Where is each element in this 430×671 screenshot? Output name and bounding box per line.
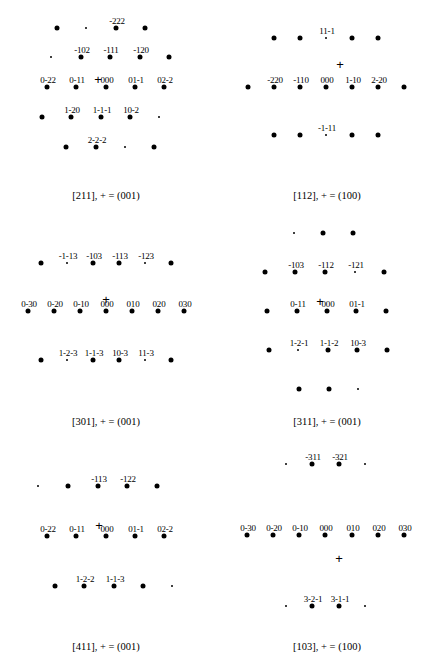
spot-index-label: 020 xyxy=(153,300,166,309)
panel-301: [301], + = (001) -1-13-103-113-1230-300-… xyxy=(0,0,430,671)
spot-index-label: -311 xyxy=(305,453,320,462)
spot-index-label: 1-10 xyxy=(345,76,361,85)
spot-index-label: 0-20 xyxy=(266,524,282,533)
spot-index-label: -123 xyxy=(138,252,154,261)
spot-index-label: 11-3 xyxy=(138,349,153,358)
diffraction-spot xyxy=(141,584,146,589)
diffraction-spot xyxy=(74,85,79,90)
spot-index-label: -222 xyxy=(109,17,125,26)
spot-index-label: 10-3 xyxy=(350,339,366,348)
spot-index-label: 0-30 xyxy=(21,300,37,309)
diffraction-spot xyxy=(265,309,270,314)
diffraction-spot xyxy=(298,85,303,90)
spot-index-label: 1-20 xyxy=(64,106,80,115)
diffraction-spot xyxy=(152,145,157,150)
diffraction-spot xyxy=(272,36,277,41)
spot-index-label: -122 xyxy=(120,475,136,484)
spot-index-label: 1-2-2 xyxy=(76,575,95,584)
diffraction-spot xyxy=(133,534,138,539)
spot-index-label: 0-22 xyxy=(40,76,56,85)
spot-index-label: -1-13 xyxy=(59,252,78,261)
panel-311: [311], + = (001) -103-112-1210-1100001-1… xyxy=(0,0,430,671)
spot-index-label: 030 xyxy=(399,524,412,533)
diffraction-spot xyxy=(156,309,161,314)
diffraction-spot xyxy=(355,348,360,353)
diffraction-spot xyxy=(354,309,359,314)
diffraction-spot xyxy=(321,231,326,236)
diffraction-spot xyxy=(271,533,276,538)
diffraction-spot xyxy=(298,36,303,41)
spot-index-label: -120 xyxy=(133,46,149,55)
spot-index-label: 010 xyxy=(347,524,360,533)
panel-caption: [301], + = (001) xyxy=(72,416,140,427)
diffraction-spot xyxy=(326,348,331,353)
diffraction-spot xyxy=(162,534,167,539)
diffraction-spot xyxy=(85,27,87,29)
diffraction-spot xyxy=(39,261,44,266)
diffraction-spot xyxy=(327,387,332,392)
diffraction-spot xyxy=(285,463,287,465)
spot-index-label: 01-1 xyxy=(128,525,144,534)
spot-index-label: 0-22 xyxy=(40,525,56,534)
diffraction-spot xyxy=(350,533,355,538)
diffraction-spot xyxy=(108,55,113,60)
diffraction-spot xyxy=(295,309,300,314)
diffraction-spot xyxy=(144,359,146,361)
spot-index-label: -110 xyxy=(293,76,308,85)
diffraction-spot xyxy=(124,146,126,148)
spot-index-label: 11-1 xyxy=(319,27,334,36)
spot-index-label: 1-1-3 xyxy=(106,575,125,584)
spot-index-label: -121 xyxy=(348,261,364,270)
diffraction-spot xyxy=(337,462,342,467)
spot-index-label: 0-10 xyxy=(73,300,89,309)
panel-caption: [103], + = (100) xyxy=(293,641,361,652)
spot-index-label: 1-1-3 xyxy=(85,349,104,358)
diffraction-spot xyxy=(167,55,172,60)
diffraction-spot xyxy=(169,261,174,266)
diffraction-spot xyxy=(125,484,130,489)
diffraction-spot xyxy=(337,604,342,609)
diffraction-spot xyxy=(74,534,79,539)
panel-211: [211], + = (001) -222-102-111-1200-220-1… xyxy=(0,0,430,671)
plus-marker-icon: + xyxy=(336,58,344,71)
spot-index-label: -111 xyxy=(103,46,118,55)
diffraction-spot xyxy=(350,133,355,138)
spot-index-label: 10-3 xyxy=(112,349,128,358)
spot-index-label: 0-20 xyxy=(47,300,63,309)
spot-index-label: 010 xyxy=(127,300,140,309)
spot-index-label: 000 xyxy=(101,525,114,534)
spot-index-label: 10-2 xyxy=(123,106,139,115)
diffraction-spot xyxy=(263,270,268,275)
diffraction-spot xyxy=(376,85,381,90)
diffraction-spot xyxy=(155,484,160,489)
panel-caption: [311], + = (001) xyxy=(293,416,360,427)
diffraction-spot xyxy=(133,85,138,90)
diffraction-spot xyxy=(245,533,250,538)
diffraction-spot xyxy=(117,358,122,363)
diffraction-spot xyxy=(385,348,390,353)
panel-103: [103], + = (100) -311-3210-300-200-10000… xyxy=(0,0,430,671)
diffraction-spot xyxy=(354,271,356,273)
panel-caption: [411], + = (001) xyxy=(72,641,139,652)
diffraction-spot xyxy=(69,115,74,120)
diffraction-spot xyxy=(293,232,295,234)
diffraction-spot xyxy=(376,36,381,41)
diffraction-spot xyxy=(310,462,315,467)
diffraction-spot xyxy=(52,309,57,314)
diffraction-spot xyxy=(91,261,96,266)
spot-index-label: 02-2 xyxy=(157,525,173,534)
diffraction-spot xyxy=(402,533,407,538)
spot-index-label: 000 xyxy=(322,300,335,309)
diffraction-pattern-figure: [211], + = (001) -222-102-111-1200-220-1… xyxy=(0,0,430,671)
diffraction-spot xyxy=(325,37,327,39)
diffraction-spot xyxy=(357,388,359,390)
plus-marker-icon: + xyxy=(94,73,102,86)
diffraction-spot xyxy=(351,231,356,236)
diffraction-spot xyxy=(91,358,96,363)
diffraction-spot xyxy=(364,605,366,607)
diffraction-spot xyxy=(26,309,31,314)
diffraction-spot xyxy=(158,116,160,118)
spot-index-label: 2-2-2 xyxy=(88,136,107,145)
plus-marker-icon: + xyxy=(102,293,110,306)
diffraction-spot xyxy=(376,133,381,138)
